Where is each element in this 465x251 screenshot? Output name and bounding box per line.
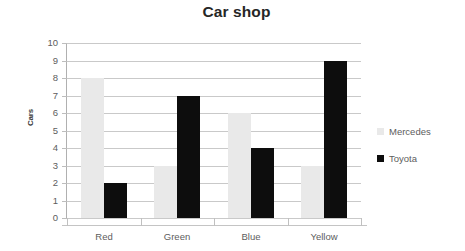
gridline bbox=[67, 148, 361, 149]
bar-mercedes-blue bbox=[228, 113, 251, 218]
y-axis-tick-label: 4 bbox=[36, 143, 58, 153]
y-axis-tick-label: 9 bbox=[36, 56, 58, 66]
y-axis-tick bbox=[62, 183, 67, 184]
bar-mercedes-yellow bbox=[301, 166, 324, 219]
x-axis-tick-label-blue: Blue bbox=[214, 231, 288, 242]
y-axis-tick-label: 7 bbox=[36, 91, 58, 101]
y-axis-tick bbox=[62, 96, 67, 97]
y-axis-tick bbox=[62, 78, 67, 79]
chart-title: Car shop bbox=[0, 3, 465, 21]
y-axis-tick bbox=[62, 148, 67, 149]
y-axis-tick bbox=[62, 166, 67, 167]
gridline bbox=[67, 61, 361, 62]
y-axis-tick-label: 1 bbox=[36, 196, 58, 206]
gridline bbox=[67, 131, 361, 132]
legend-item-mercedes[interactable]: Mercedes bbox=[377, 118, 463, 145]
y-axis-tick-label: 3 bbox=[36, 161, 58, 171]
y-axis-tick bbox=[62, 113, 67, 114]
plot-area bbox=[67, 43, 361, 218]
y-axis-tick-label: 8 bbox=[36, 73, 58, 83]
gridline bbox=[67, 43, 361, 44]
legend-label-mercedes: Mercedes bbox=[389, 126, 431, 137]
y-axis-tick bbox=[62, 43, 67, 44]
gridline bbox=[67, 113, 361, 114]
x-axis-tick-label-red: Red bbox=[67, 231, 141, 242]
x-axis-tick bbox=[361, 218, 362, 226]
bar-toyota-blue bbox=[251, 148, 274, 218]
y-axis-tick bbox=[62, 131, 67, 132]
chart-legend: MercedesToyota bbox=[377, 118, 463, 172]
legend-swatch-icon-toyota bbox=[377, 155, 384, 162]
y-axis-tick-label: 5 bbox=[36, 126, 58, 136]
gridline bbox=[67, 96, 361, 97]
bar-mercedes-green bbox=[154, 166, 177, 219]
x-axis-tick-label-yellow: Yellow bbox=[287, 231, 361, 242]
y-axis-tick bbox=[62, 61, 67, 62]
y-axis-tick-label: 2 bbox=[36, 178, 58, 188]
chart-title-text: Car shop bbox=[203, 3, 271, 21]
x-axis-tick bbox=[288, 218, 289, 226]
legend-label-toyota: Toyota bbox=[389, 153, 417, 164]
bar-toyota-green bbox=[177, 96, 200, 219]
x-axis-tick bbox=[141, 218, 142, 226]
y-axis-tick-label: 6 bbox=[36, 108, 58, 118]
chart-figure: Car shop Cars 109876543210 RedGreenBlueY… bbox=[0, 0, 465, 251]
x-axis-tick bbox=[214, 218, 215, 226]
x-axis-tick bbox=[67, 218, 68, 226]
x-axis-tick-label-green: Green bbox=[140, 231, 214, 242]
bar-mercedes-red bbox=[81, 78, 104, 218]
bar-toyota-red bbox=[104, 183, 127, 218]
y-axis-tick-label: 10 bbox=[36, 38, 58, 48]
gridline bbox=[67, 78, 361, 79]
y-axis-tick-labels: 109876543210 bbox=[34, 0, 58, 251]
y-axis-tick bbox=[62, 201, 67, 202]
y-axis-tick-label: 0 bbox=[36, 213, 58, 223]
legend-item-toyota[interactable]: Toyota bbox=[377, 145, 463, 172]
bar-toyota-yellow bbox=[324, 61, 347, 219]
y-axis-tick bbox=[62, 218, 67, 219]
legend-swatch-icon-mercedes bbox=[377, 128, 384, 135]
